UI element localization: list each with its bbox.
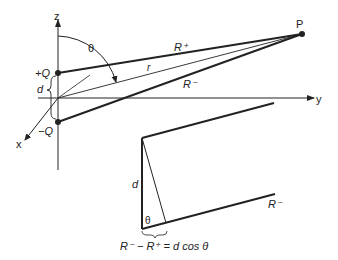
- x-axis-label: x: [16, 138, 22, 150]
- r-plus-line: [58, 34, 302, 73]
- projection-line: [58, 75, 90, 98]
- inset-d-label: d: [132, 178, 139, 190]
- y-axis-label: y: [316, 93, 322, 105]
- inset-r-minus-line: [142, 194, 275, 229]
- theta-label: θ: [88, 42, 94, 54]
- inset-r-plus-line: [142, 103, 274, 138]
- inset-perpendicular: [142, 138, 166, 223]
- r-label: r: [147, 62, 151, 73]
- inset-theta-label: θ: [145, 215, 151, 226]
- theta-arc: [58, 36, 116, 82]
- dipole-diagram: z y x θ +Q −Q d P r R⁺ R⁻ d θ R⁻ R⁻ − R⁺…: [0, 0, 338, 260]
- positive-charge-label: +Q: [35, 67, 50, 79]
- d-label: d: [37, 83, 44, 95]
- positive-charge-dot: [55, 70, 61, 76]
- r-minus-label: R⁻: [183, 78, 198, 90]
- negative-charge-label: −Q: [38, 125, 53, 137]
- z-axis-label: z: [54, 10, 60, 22]
- r-plus-label: R⁺: [174, 41, 189, 53]
- point-p-label: P: [296, 18, 303, 30]
- point-p-dot: [299, 31, 305, 37]
- diagram-canvas: z y x θ +Q −Q d P r R⁺ R⁻ d θ R⁻ R⁻ − R⁺…: [0, 0, 338, 260]
- negative-charge-dot: [55, 119, 61, 125]
- inset-r-minus-label: R⁻: [268, 198, 283, 210]
- inset-equation: R⁻ − R⁺ = d cos θ: [120, 240, 208, 252]
- inset-difference-brace: [142, 231, 167, 238]
